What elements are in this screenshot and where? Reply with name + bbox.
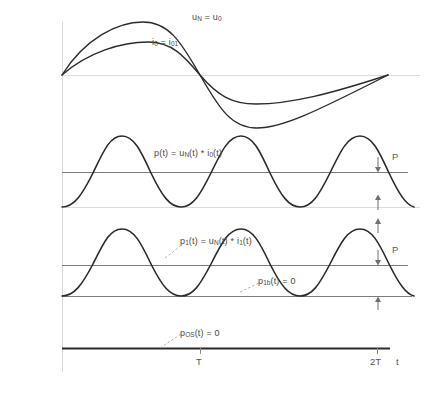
- figure-canvas: uN = u0 i0 = i01 p(t) = uN(t) * i0(t) P …: [0, 0, 426, 413]
- curve-label-i0: i0 = i01: [152, 37, 178, 47]
- waveform-diagram: [0, 0, 426, 413]
- power-marker-p-upper: P: [392, 151, 398, 162]
- axis-label-t: t: [396, 356, 399, 367]
- tick-2T: 2T: [370, 356, 381, 367]
- curve-label-pos: pOS(t) = 0: [180, 328, 220, 338]
- curve-p: [62, 136, 414, 207]
- leader-pos: [160, 334, 181, 348]
- curve-label-p1b: p1b(t) = 0: [258, 276, 296, 286]
- panel2-power-arrows: [375, 157, 381, 210]
- curve-i0: [62, 42, 388, 104]
- curve-label-p: p(t) = uN(t) * i0(t): [154, 148, 222, 158]
- curve-label-un: uN = u0: [192, 12, 222, 22]
- curve-label-p1: p1(t) = uN(t) * i1(t): [180, 236, 252, 246]
- tick-T: T: [196, 356, 202, 367]
- leader-p1b: [240, 283, 259, 292]
- power-marker-p1-upper: P: [392, 244, 398, 255]
